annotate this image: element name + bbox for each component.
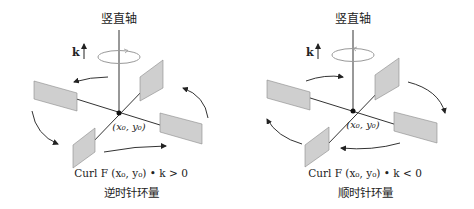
paddle-back — [375, 58, 399, 100]
cw-arrow-top — [306, 76, 343, 81]
ccw-arrow-bottom — [104, 146, 166, 152]
paddle-left — [267, 80, 310, 110]
point-label: (x₀, y₀) — [346, 119, 379, 130]
cw-arrow-left — [267, 119, 302, 144]
ccw-arrow-left — [32, 111, 58, 144]
y-axis — [90, 88, 145, 145]
caption: 顺时针环量 — [338, 184, 393, 200]
center-point — [117, 111, 122, 116]
paddle-left — [34, 81, 77, 111]
paddle-right — [394, 112, 437, 143]
cw-arrow-bottom — [341, 143, 400, 149]
cw-arrow-right — [408, 82, 445, 113]
paddle-back — [140, 60, 163, 101]
panel-counterclockwise: 竖直轴 k (x₀, y₀) Curl F (x₀, y₀) • k > 0 逆… — [0, 0, 237, 209]
axis-title: 竖直轴 — [101, 9, 137, 26]
panel-clockwise: 竖直轴 k (x₀, y₀) Curl F (x₀, y₀) • k < 0 顺… — [237, 0, 474, 209]
curl-formula: Curl F (x₀, y₀) • k < 0 — [308, 167, 422, 179]
point-label: (x₀, y₀) — [112, 121, 145, 132]
paddle-right — [160, 113, 202, 144]
ccw-arrow-top — [74, 77, 108, 82]
unit-vector-label: k — [72, 46, 80, 59]
paddle-front — [73, 128, 95, 168]
center-point — [351, 109, 356, 114]
axis-title: 竖直轴 — [335, 9, 371, 26]
y-axis — [327, 88, 382, 145]
paddle-front — [305, 127, 329, 167]
unit-vector-label: k — [306, 46, 314, 59]
curl-formula: Curl F (x₀, y₀) • k > 0 — [74, 167, 188, 179]
caption: 逆时针环量 — [104, 184, 159, 200]
ccw-arrow-right — [183, 88, 208, 118]
